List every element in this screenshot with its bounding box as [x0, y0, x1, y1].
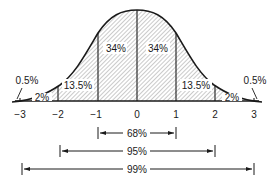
tick-minus-2: −2 [52, 109, 64, 120]
tick-minus-3: −3 [14, 109, 26, 120]
tick-2: 2 [212, 109, 218, 120]
tick-labels: −3 −2 −1 0 1 2 3 [14, 109, 257, 120]
label-band-right-1: 13.5% [182, 80, 210, 91]
range-68-label: 68% [127, 128, 147, 139]
tail-right-pointer [252, 88, 257, 99]
tick-minus-1: −1 [90, 109, 102, 120]
range-95-label: 95% [127, 146, 147, 157]
label-band-left-2: 2% [35, 92, 50, 103]
label-tail-right: 0.5% [244, 75, 267, 86]
label-tail-left: 0.5% [16, 75, 39, 86]
label-band-left-0: 34% [106, 43, 126, 54]
tick-1: 1 [173, 109, 179, 120]
range-99-label: 99% [127, 164, 147, 175]
tick-3: 3 [251, 109, 257, 120]
tail-left-pointer [17, 88, 22, 99]
normal-distribution-diagram: 34% 34% 13.5% 13.5% 2% 2% 0.5% 0.5% −3 −… [0, 0, 273, 188]
label-band-left-1: 13.5% [64, 80, 92, 91]
label-band-right-0: 34% [148, 43, 168, 54]
label-band-right-2: 2% [225, 92, 240, 103]
tick-0: 0 [134, 109, 140, 120]
